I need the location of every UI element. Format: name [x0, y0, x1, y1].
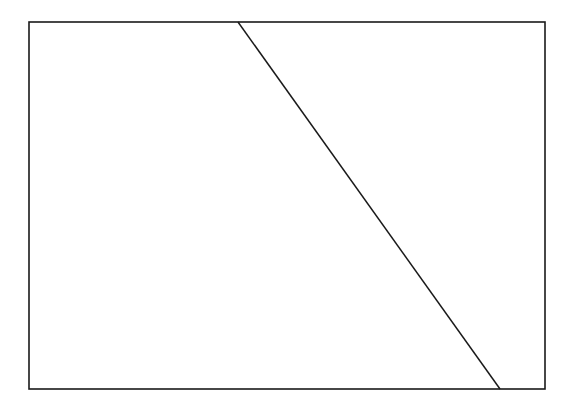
outer-rectangle: [29, 22, 545, 389]
geometric-figure-svg: [0, 0, 581, 415]
figure-canvas: [0, 0, 581, 415]
